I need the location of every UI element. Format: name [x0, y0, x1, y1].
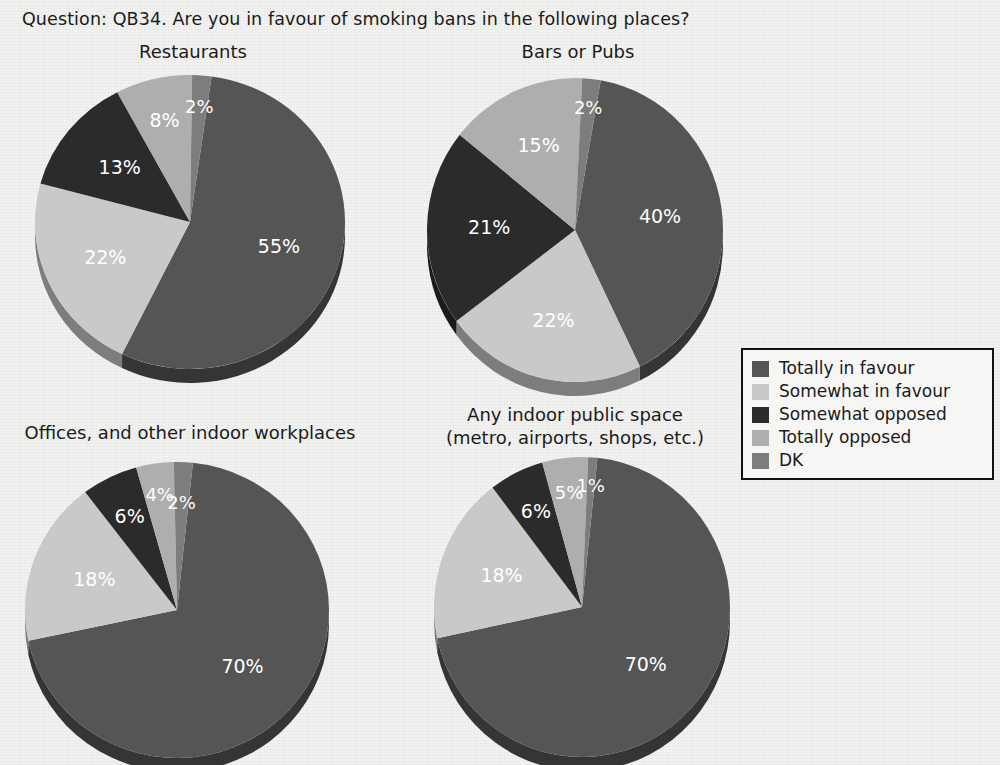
pie-slice-label: 2% [574, 97, 603, 118]
pie-slice-label: 70% [625, 653, 667, 675]
pie-slice-label: 2% [167, 492, 196, 513]
legend-swatch-icon-totally-opposed [752, 430, 769, 446]
pie-chart-bars-or-pubs: 40%22%21%15%2% [420, 70, 740, 388]
chart-legend: Totally in favour Somewhat in favour Som… [741, 348, 994, 480]
chart-title-restaurants: Restaurants [93, 40, 293, 63]
pie-slice-label: 1% [576, 475, 605, 496]
legend-label-totally-opposed: Totally opposed [779, 428, 911, 447]
pie-slice-label: 22% [84, 246, 126, 268]
chart-title-public-space-line2: (metro, airports, shops, etc.) [425, 426, 725, 449]
pie-slice-label: 2% [185, 96, 214, 117]
legend-item-totally-in-favour: Totally in favour [752, 357, 992, 380]
pie-svg-bars-or-pubs: 40%22%21%15%2% [420, 70, 740, 388]
pie-top-face [35, 75, 345, 369]
pie-slice-label: 55% [258, 235, 300, 257]
legend-swatch-icon-totally-in-favour [752, 361, 769, 377]
pie-svg-offices: 70%18%6%4%2% [20, 462, 350, 765]
legend-label-somewhat-in-favour: Somewhat in favour [779, 382, 950, 401]
chart-title-public-space-line1: Any indoor public space [425, 403, 725, 426]
legend-item-somewhat-in-favour: Somewhat in favour [752, 380, 992, 403]
pie-chart-restaurants: 55%22%13%8%2% [18, 72, 368, 390]
pie-svg-public-space: 70%18%6%5%1% [430, 455, 750, 765]
chart-title-offices: Offices, and other indoor workplaces [10, 421, 370, 444]
legend-label-dk: DK [779, 451, 803, 470]
pie-slice-label: 13% [99, 156, 141, 178]
pie-slice-label: 15% [517, 134, 559, 156]
pie-slice-label: 18% [73, 568, 115, 590]
legend-item-totally-opposed: Totally opposed [752, 426, 992, 449]
pie-slice-label: 6% [521, 500, 551, 522]
pie-slice-label: 18% [480, 564, 522, 586]
legend-label-somewhat-opposed: Somewhat opposed [779, 405, 947, 424]
legend-swatch-icon-somewhat-opposed [752, 407, 769, 423]
chart-title-public-space: Any indoor public space (metro, airports… [425, 403, 725, 449]
legend-item-somewhat-opposed: Somewhat opposed [752, 403, 992, 426]
question-heading: Question: QB34. Are you in favour of smo… [22, 9, 690, 29]
pie-slice-label: 21% [468, 216, 510, 238]
pie-slice-label: 6% [115, 505, 145, 527]
pie-slice-label: 70% [221, 655, 263, 677]
pie-chart-offices: 70%18%6%4%2% [20, 462, 350, 765]
pie-svg-restaurants: 55%22%13%8%2% [18, 72, 368, 390]
chart-title-bars-or-pubs: Bars or Pubs [478, 40, 678, 63]
legend-item-dk: DK [752, 449, 992, 472]
pie-slice-label: 40% [639, 205, 681, 227]
legend-swatch-icon-dk [752, 453, 769, 469]
pie-slice-label: 8% [149, 109, 179, 131]
legend-label-totally-in-favour: Totally in favour [779, 359, 914, 378]
pie-chart-public-space: 70%18%6%5%1% [430, 455, 750, 765]
pie-slice-label: 22% [532, 309, 574, 331]
legend-swatch-icon-somewhat-in-favour [752, 384, 769, 400]
